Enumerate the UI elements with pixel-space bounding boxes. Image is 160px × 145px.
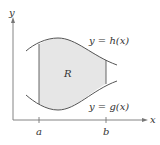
region-diagram: y x a b R y = h(x) y = g(x) xyxy=(0,0,160,145)
region-r-fill xyxy=(39,38,106,110)
x-axis-arrow-icon xyxy=(142,118,148,122)
tick-label-a: a xyxy=(36,126,42,137)
y-axis-label: y xyxy=(8,7,15,18)
region-label: R xyxy=(63,68,72,79)
x-axis-label: x xyxy=(150,114,156,125)
upper-curve-label: y = h(x) xyxy=(88,35,129,46)
tick-label-b: b xyxy=(103,126,109,137)
lower-curve-label: y = g(x) xyxy=(88,101,129,112)
